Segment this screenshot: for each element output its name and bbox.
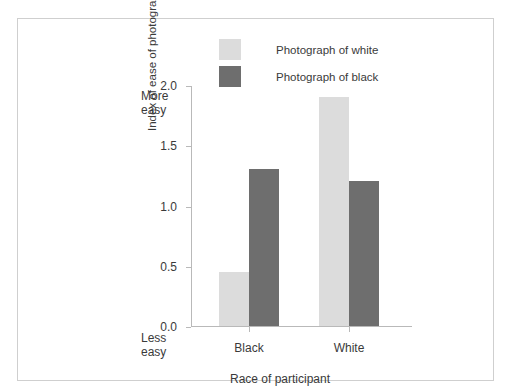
y-axis-tick: 1.5 [186,146,191,147]
legend-swatch-light [219,39,241,60]
x-axis-title: Race of participant [230,372,330,386]
y-axis-tick-label: 1.0 [160,200,177,214]
x-axis-tick-label: Black [234,341,263,355]
scale-anchor-more-line2: easy [141,103,168,117]
scale-anchor-more-line1: More [141,89,168,103]
bar-white-photo-white [319,97,349,326]
x-axis-tick: Black [249,327,250,332]
bar-black-photo-black [249,169,279,326]
bar-black-photo-white [219,272,249,326]
x-axis-line [191,326,412,327]
plot-area: 0.00.51.01.52.0 BlackWhite [191,86,412,327]
y-axis-line [191,86,192,327]
figure-frame: Photograph of white Photograph of black … [17,18,494,381]
legend-item-photograph-of-white: Photograph of white [219,36,439,63]
legend-label-photograph-of-white: Photograph of white [276,44,378,56]
legend-swatch-dark [219,66,241,87]
bar-white-photo-black [349,181,379,326]
y-axis-tick: 0.5 [186,267,191,268]
scale-anchor-less-line2: easy [141,345,166,359]
y-axis-tick: 1.0 [186,207,191,208]
x-axis-tick-label: White [334,341,365,355]
y-axis-tick-label: 1.5 [160,139,177,153]
scale-anchor-less-line1: Less [141,331,166,345]
scale-anchor-less-easy: Less easy [141,331,166,359]
x-axis-tick: White [349,327,350,332]
y-axis-tick: 2.0 [186,86,191,87]
y-axis-tick: 0.0 [186,327,191,328]
chart-legend: Photograph of white Photograph of black [219,36,439,90]
y-axis-tick-label: 0.5 [160,260,177,274]
scale-anchor-more-easy: More easy [141,89,168,117]
legend-label-photograph-of-black: Photograph of black [276,71,378,83]
